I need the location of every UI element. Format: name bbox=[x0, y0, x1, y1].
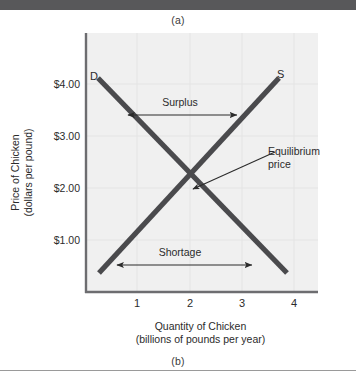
x-tick-2: 2 bbox=[178, 297, 202, 309]
equilibrium-price-annotation: Equilibrium price bbox=[268, 145, 354, 171]
surplus-label: Surplus bbox=[140, 96, 220, 108]
x-tick-4: 4 bbox=[282, 297, 306, 309]
y-axis-title-main: Price of Chicken bbox=[9, 103, 22, 243]
x-axis-title: Quantity of Chicken (billions of pounds … bbox=[78, 320, 323, 346]
y-tick-4: $4.00 bbox=[24, 79, 80, 90]
y-axis-title: Price of Chicken (dollars per pound) bbox=[9, 103, 34, 243]
supply-demand-figure: (a) bbox=[0, 0, 356, 373]
shortage-label: Shortage bbox=[140, 246, 220, 258]
equilibrium-label-line2: price bbox=[268, 158, 354, 171]
equilibrium-label-line1: Equilibrium bbox=[268, 145, 354, 158]
x-axis-title-main: Quantity of Chicken bbox=[78, 320, 323, 333]
bottom-divider-rule bbox=[0, 370, 356, 371]
demand-curve-label: D bbox=[90, 70, 98, 82]
x-tick-3: 3 bbox=[230, 297, 254, 309]
panel-label-b: (b) bbox=[0, 355, 356, 367]
x-tick-1: 1 bbox=[125, 297, 149, 309]
supply-curve-label: S bbox=[277, 68, 284, 80]
x-axis-title-sub: (billions of pounds per year) bbox=[78, 333, 323, 346]
y-axis-title-sub: (dollars per pound) bbox=[21, 103, 34, 243]
